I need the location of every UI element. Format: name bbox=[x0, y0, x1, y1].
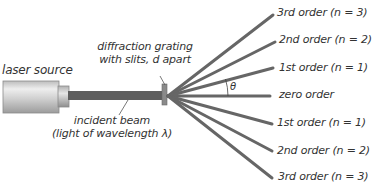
incident-beam-label: incident beam (light of wavelength λ) bbox=[52, 114, 172, 140]
order-label-3rd-down: 3rd order (n = 3) bbox=[278, 170, 368, 183]
beam-label-line-2: (light of wavelength λ) bbox=[52, 127, 172, 140]
order-label-3rd-up: 3rd order (n = 3) bbox=[277, 6, 367, 19]
laser-source-label: laser source bbox=[2, 64, 73, 77]
diffraction-ray-6 bbox=[168, 96, 272, 178]
order-label-zero: zero order bbox=[279, 88, 334, 101]
order-label-1st-up: 1st order (n = 1) bbox=[279, 61, 368, 74]
beam-label-line-1: incident beam bbox=[52, 114, 172, 127]
order-label-1st-down: 1st order (n = 1) bbox=[277, 116, 366, 129]
diffraction-ray-5 bbox=[168, 96, 272, 151]
grating-label-line-2: with slits, d apart bbox=[95, 53, 195, 66]
theta-symbol: θ bbox=[230, 80, 236, 93]
grating-label-line-1: diffraction grating bbox=[95, 40, 195, 53]
incident-beam bbox=[68, 91, 163, 100]
order-label-2nd-up: 2nd order (n = 2) bbox=[279, 33, 372, 46]
grating-leader-line bbox=[160, 76, 165, 85]
order-label-2nd-down: 2nd order (n = 2) bbox=[277, 144, 370, 157]
laser-source-icon bbox=[3, 81, 69, 113]
diffraction-grating-label: diffraction grating with slits, d apart bbox=[95, 40, 195, 66]
beam-leader-line bbox=[119, 100, 128, 115]
diffraction-grating bbox=[162, 84, 167, 105]
